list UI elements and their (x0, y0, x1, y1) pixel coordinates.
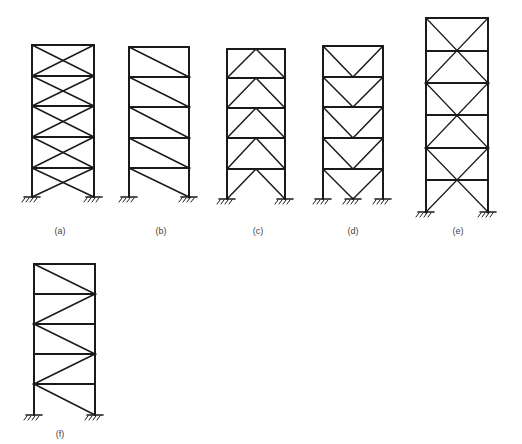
hatch (373, 200, 376, 204)
hatch (34, 198, 37, 202)
hatch (428, 213, 431, 217)
frame-b (119, 47, 197, 202)
hatch (127, 198, 130, 202)
hatch (30, 198, 33, 202)
zigzag-brace (34, 264, 95, 294)
hatch (283, 200, 286, 204)
inv-v-brace (353, 169, 383, 199)
fixed-support-icon (24, 415, 42, 420)
hatch (123, 198, 126, 202)
hatch (275, 200, 278, 204)
fixed-support-icon (313, 199, 331, 204)
hatch (88, 198, 91, 202)
joint-node (187, 105, 190, 108)
v-brace (323, 77, 353, 107)
joint-node (187, 136, 190, 139)
hatch (313, 200, 316, 204)
chevron-brace (256, 138, 285, 169)
hatch (355, 200, 358, 204)
hatch (22, 198, 25, 202)
fixed-support-icon (85, 415, 103, 420)
label-c: (c) (253, 226, 264, 236)
v-brace (323, 46, 353, 77)
hatch (97, 416, 100, 420)
hatch (287, 200, 290, 204)
frame-f (24, 264, 103, 420)
hatch (131, 198, 134, 202)
hatch (225, 200, 228, 204)
hatch (351, 200, 354, 204)
v-brace (323, 107, 353, 138)
hatch (85, 416, 88, 420)
label-f: (f) (56, 429, 65, 439)
diagonal-brace (129, 107, 189, 138)
frame-c (217, 49, 293, 204)
chevron-brace (227, 78, 256, 108)
fixed-support-icon (22, 197, 40, 202)
chevron-brace (227, 108, 256, 138)
hatch (32, 416, 35, 420)
chevron-brace (256, 108, 285, 138)
v-brace (353, 107, 383, 138)
zigzag-brace (34, 294, 95, 324)
hatch (119, 198, 122, 202)
chevron-brace (227, 169, 256, 199)
zigzag-brace (34, 354, 95, 384)
hatch (89, 416, 92, 420)
hatch (221, 200, 224, 204)
hatch (187, 198, 190, 202)
joint-node (93, 292, 96, 295)
hatch (416, 213, 419, 217)
fixed-support-icon (84, 197, 102, 202)
fixed-support-icon (179, 197, 197, 202)
joint-node (93, 352, 96, 355)
fixed-support-icon (119, 197, 137, 202)
hatch (381, 200, 384, 204)
frame-a (22, 45, 102, 202)
v-brace (353, 46, 383, 77)
chevron-brace (227, 49, 256, 78)
joint-node (32, 322, 35, 325)
v-brace (353, 138, 383, 169)
inv-v-brace (323, 169, 353, 199)
hatch (317, 200, 320, 204)
hatch (420, 213, 423, 217)
hatch (478, 213, 481, 217)
hatch (191, 198, 194, 202)
fixed-support-icon (373, 199, 391, 204)
hatch (96, 198, 99, 202)
fixed-support-icon (275, 199, 293, 204)
hatch (84, 198, 87, 202)
fixed-support-icon (416, 212, 434, 217)
joint-node (187, 75, 190, 78)
hatch (325, 200, 328, 204)
diagonal-brace (129, 168, 189, 197)
hatch (24, 416, 27, 420)
frame-d (313, 46, 391, 204)
joint-node (32, 382, 35, 385)
fixed-support-icon (478, 212, 496, 217)
hatch (229, 200, 232, 204)
label-e: (e) (453, 226, 464, 236)
braced-frames-diagram (0, 0, 522, 444)
hatch (217, 200, 220, 204)
chevron-brace (227, 138, 256, 169)
zigzag-brace (34, 384, 95, 415)
chevron-brace (256, 78, 285, 108)
hatch (279, 200, 282, 204)
hatch (347, 200, 350, 204)
hatch (490, 213, 493, 217)
chevron-brace (256, 49, 285, 78)
diagonal-brace (129, 47, 189, 77)
hatch (183, 198, 186, 202)
hatch (92, 198, 95, 202)
v-brace (353, 77, 383, 107)
hatch (424, 213, 427, 217)
diagonal-brace (129, 77, 189, 107)
hatch (377, 200, 380, 204)
hatch (482, 213, 485, 217)
hatch (179, 198, 182, 202)
chevron-brace (256, 169, 285, 199)
hatch (26, 198, 29, 202)
hatch (36, 416, 39, 420)
